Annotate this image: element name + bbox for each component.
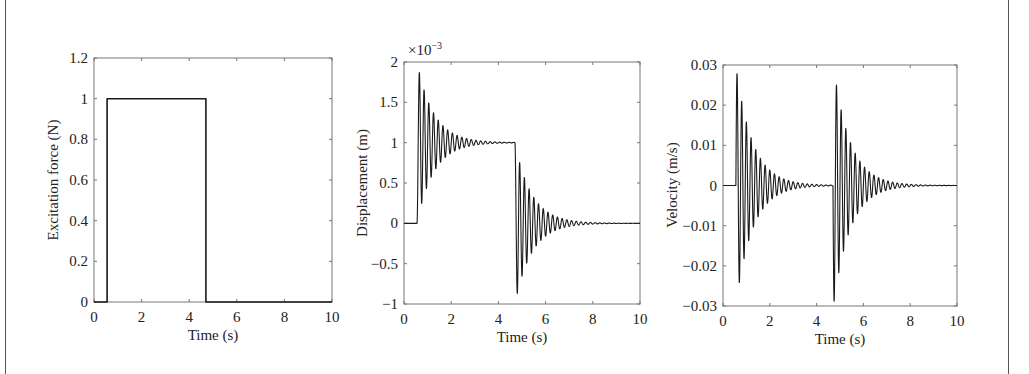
displacement-trace bbox=[404, 73, 640, 294]
force-trace bbox=[94, 99, 332, 302]
velocity-ytick: 0.03 bbox=[691, 57, 717, 73]
force-xtick: 0 bbox=[90, 309, 98, 325]
velocity-trace bbox=[723, 74, 957, 301]
displacement-xtick: 10 bbox=[633, 311, 648, 327]
velocity-xtick: 0 bbox=[719, 313, 727, 329]
displacement-xtick: 4 bbox=[495, 311, 503, 327]
velocity-xtick: 6 bbox=[860, 313, 868, 329]
force-plot: 0 0.2 0.4 0.6 0.8 1 1.2 0 2 4 6 8 10 Tim… bbox=[45, 50, 340, 344]
force-ytick: 0 bbox=[81, 294, 89, 310]
velocity-ylabel: Velocity (m/s) bbox=[664, 142, 681, 227]
force-ytick: 0.8 bbox=[69, 131, 88, 147]
velocity-xtick: 8 bbox=[906, 313, 914, 329]
displacement-xtick-labels: 0 2 4 6 8 10 bbox=[400, 311, 647, 327]
displacement-ytick: −1 bbox=[382, 296, 398, 312]
figure: 0 0.2 0.4 0.6 0.8 1 1.2 0 2 4 6 8 10 Tim… bbox=[0, 0, 1029, 374]
velocity-xtick: 4 bbox=[813, 313, 821, 329]
force-xlabel: Time (s) bbox=[188, 327, 239, 344]
force-ytick-labels: 0 0.2 0.4 0.6 0.8 1 1.2 bbox=[69, 50, 88, 310]
velocity-plot: −0.03 −0.02 −0.01 0 0.01 0.02 0.03 0 2 4… bbox=[664, 57, 965, 348]
velocity-ytick: 0.01 bbox=[691, 137, 717, 153]
force-ytick: 0.4 bbox=[69, 213, 88, 229]
force-ylabel: Excitation force (N) bbox=[45, 120, 62, 241]
displacement-ytick: 2 bbox=[391, 54, 399, 70]
displacement-ytick: −0.5 bbox=[371, 256, 398, 272]
force-ytick: 0.2 bbox=[69, 253, 88, 269]
velocity-ytick-labels: −0.03 −0.02 −0.01 0 0.01 0.02 0.03 bbox=[682, 57, 717, 314]
force-axes-box bbox=[94, 58, 332, 302]
displacement-xtick: 2 bbox=[447, 311, 455, 327]
force-xtick: 2 bbox=[138, 309, 146, 325]
displacement-xlabel: Time (s) bbox=[497, 329, 548, 346]
displacement-ytick: 1 bbox=[391, 135, 399, 151]
force-ytick: 1.2 bbox=[69, 50, 88, 66]
velocity-xtick-labels: 0 2 4 6 8 10 bbox=[719, 313, 964, 329]
displacement-plot: −1 −0.5 0 0.5 1 1.5 2 ×10−3 0 2 4 6 8 10… bbox=[354, 40, 648, 346]
displacement-multiplier: ×10−3 bbox=[408, 40, 442, 58]
displacement-xtick: 6 bbox=[542, 311, 550, 327]
force-ytick: 0.6 bbox=[69, 172, 88, 188]
velocity-xtick: 2 bbox=[766, 313, 774, 329]
velocity-ytick: −0.03 bbox=[682, 298, 717, 314]
velocity-ytick: 0 bbox=[710, 178, 718, 194]
force-xtick: 4 bbox=[185, 309, 193, 325]
force-ytick: 1 bbox=[81, 91, 89, 107]
displacement-ylabel: Displacement (m) bbox=[354, 129, 371, 237]
displacement-xtick: 8 bbox=[589, 311, 597, 327]
displacement-ytick: 0 bbox=[391, 215, 399, 231]
displacement-xtick: 0 bbox=[400, 311, 408, 327]
velocity-xtick: 10 bbox=[950, 313, 965, 329]
displacement-ytick-labels: −1 −0.5 0 0.5 1 1.5 2 bbox=[371, 54, 398, 312]
velocity-ytick: 0.02 bbox=[691, 97, 717, 113]
velocity-ytick: −0.01 bbox=[682, 218, 717, 234]
force-xtick: 6 bbox=[233, 309, 241, 325]
displacement-ytick: 1.5 bbox=[379, 94, 398, 110]
force-xtick-labels: 0 2 4 6 8 10 bbox=[90, 309, 339, 325]
force-xtick: 10 bbox=[325, 309, 340, 325]
velocity-ytick: −0.02 bbox=[682, 258, 717, 274]
force-ticks bbox=[94, 58, 332, 302]
velocity-xlabel: Time (s) bbox=[815, 331, 866, 348]
displacement-ytick: 0.5 bbox=[379, 175, 398, 191]
force-xtick: 8 bbox=[281, 309, 289, 325]
